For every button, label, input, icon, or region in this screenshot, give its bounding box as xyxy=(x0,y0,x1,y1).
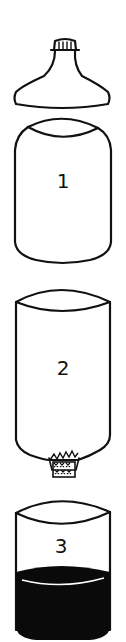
bottle-cap-icon xyxy=(51,39,79,50)
part-3-label: 3 xyxy=(55,534,68,558)
bottle-part-2: 2 xyxy=(16,290,110,477)
dark-liquid xyxy=(16,566,110,640)
bottle-part-3: 3 xyxy=(16,501,110,640)
bottle-top-piece xyxy=(15,39,110,108)
filter-mesh-icon xyxy=(49,451,79,477)
part-2-label: 2 xyxy=(57,356,70,380)
part-1-label: 1 xyxy=(57,169,70,193)
bottle-filter-diagram: 1 2 3 xyxy=(0,0,126,642)
bottle-part-1: 1 xyxy=(15,119,111,263)
